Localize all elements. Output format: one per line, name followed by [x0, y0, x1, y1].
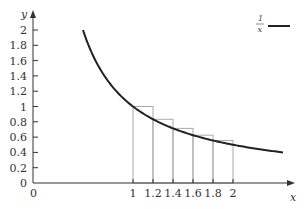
riemann-rectangle: [213, 140, 233, 183]
y-axis-label: y: [20, 8, 28, 21]
riemann-rectangle: [173, 128, 193, 183]
legend: 1 x: [256, 14, 290, 34]
y-tick-label: 1.4: [10, 70, 28, 83]
x-axis-arrow-icon: [287, 180, 295, 186]
x-axis-label: x: [290, 191, 297, 204]
axes: [30, 10, 295, 186]
curve-one-over-x: [83, 30, 283, 152]
x-ticks: 11.21.41.61.82: [130, 179, 237, 200]
y-tick-label: 0.8: [10, 116, 28, 129]
y-tick-label: 0.4: [10, 146, 28, 159]
x-tick-label: 1.2: [144, 187, 162, 200]
origin-label: 0: [30, 187, 37, 200]
riemann-rectangles: [133, 107, 233, 184]
x-tick-label: 2: [230, 187, 237, 200]
y-tick-label: 0: [20, 177, 27, 190]
x-tick-label: 1.6: [184, 187, 202, 200]
y-tick-label: 1.8: [10, 39, 28, 52]
x-tick-label: 1.4: [164, 187, 182, 200]
legend-denominator: x: [258, 25, 263, 34]
riemann-rectangle: [153, 119, 173, 183]
y-tick-label: 1.2: [10, 85, 28, 98]
legend-numerator: 1: [258, 14, 263, 23]
y-ticks: 00.20.40.60.811.21.41.61.82: [10, 24, 39, 190]
y-tick-label: 1.6: [10, 55, 28, 68]
y-tick-label: 0.6: [10, 131, 28, 144]
y-axis-arrow-icon: [30, 10, 36, 18]
riemann-rectangle: [193, 135, 213, 183]
y-tick-label: 2: [20, 24, 27, 37]
x-tick-label: 1.8: [204, 187, 222, 200]
chart: 00.20.40.60.811.21.41.61.82 11.21.41.61.…: [0, 0, 308, 209]
y-tick-label: 0.2: [10, 162, 28, 175]
y-tick-label: 1: [20, 101, 27, 114]
x-tick-label: 1: [130, 187, 137, 200]
